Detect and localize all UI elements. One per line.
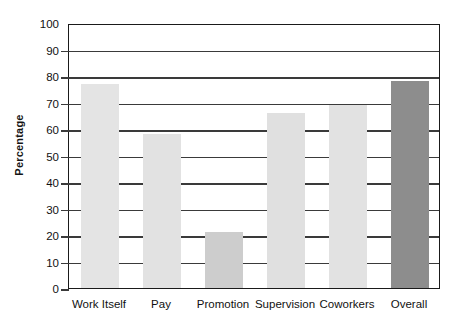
y-axis-tick-mark bbox=[61, 210, 69, 211]
y-axis-tick-label: 20 bbox=[10, 230, 68, 242]
y-axis-tick-label: 60 bbox=[10, 124, 68, 136]
x-axis-tick-label: Pay bbox=[130, 298, 192, 310]
plot-area bbox=[68, 24, 440, 289]
y-axis-tick-label: 50 bbox=[10, 151, 68, 163]
y-axis-tick-mark bbox=[61, 104, 69, 105]
y-axis-tick-mark bbox=[61, 183, 69, 184]
x-axis-tick-label: Work Itself bbox=[68, 298, 130, 310]
bar bbox=[391, 81, 429, 288]
bar bbox=[143, 134, 181, 288]
x-axis-tick-label: Promotion bbox=[192, 298, 254, 310]
gridline bbox=[69, 210, 439, 211]
bar-chart: Percentage 0102030405060708090100 Work I… bbox=[0, 0, 464, 329]
gridline bbox=[69, 236, 439, 237]
y-axis-tick-label: 30 bbox=[10, 204, 68, 216]
x-axis-tick-label: Overall bbox=[378, 298, 440, 310]
bar bbox=[205, 232, 243, 288]
y-axis-tick-mark bbox=[61, 289, 69, 290]
gridline bbox=[69, 77, 439, 78]
gridline bbox=[69, 130, 439, 131]
gridline bbox=[69, 157, 439, 158]
gridline bbox=[69, 51, 439, 52]
y-axis-tick-label: 90 bbox=[10, 45, 68, 57]
y-axis-tick-label: 0 bbox=[10, 283, 68, 295]
y-axis-tick-label: 10 bbox=[10, 257, 68, 269]
bar bbox=[329, 105, 367, 288]
gridline bbox=[69, 183, 439, 184]
y-axis-tick-label: 40 bbox=[10, 177, 68, 189]
bar bbox=[267, 113, 305, 288]
y-axis-tick-mark bbox=[61, 51, 69, 52]
y-axis-tick-label: 70 bbox=[10, 98, 68, 110]
gridline bbox=[69, 104, 439, 105]
y-axis-tick-mark bbox=[61, 157, 69, 158]
y-axis-tick-mark bbox=[61, 77, 69, 78]
y-axis-tick-mark bbox=[61, 130, 69, 131]
x-axis-tick-label: Supervision bbox=[254, 298, 316, 310]
bar bbox=[81, 84, 119, 288]
y-axis-tick-mark bbox=[61, 236, 69, 237]
x-axis-tick-label: Coworkers bbox=[316, 298, 378, 310]
y-axis-title: Percentage bbox=[8, 0, 30, 289]
y-axis-tick-label: 100 bbox=[10, 18, 68, 30]
y-axis-tick-label: 80 bbox=[10, 71, 68, 83]
y-axis-tick-mark bbox=[61, 263, 69, 264]
gridline bbox=[69, 263, 439, 264]
